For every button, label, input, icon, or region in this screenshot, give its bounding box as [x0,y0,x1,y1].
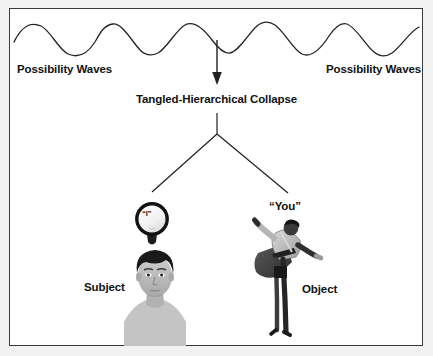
label-possibility-waves-right: Possibility Waves [326,63,421,75]
fork-branch-right [217,134,288,193]
figure-hand-raised [255,220,259,224]
fork-branch-left [152,134,217,192]
label-tangled-hierarchical-collapse: Tangled-Hierarchical Collapse [136,93,297,105]
figure-arm-extended [298,245,316,256]
figure-hand-extended [316,256,321,258]
label-subject: Subject [84,281,125,293]
portrait-pupil-right [160,274,163,277]
y-fork-group [152,113,288,193]
label-quoted-you: “You” [269,200,301,212]
figure-foot-back [271,330,276,334]
subject-face-portrait [124,250,186,346]
label-object: Object [302,283,337,295]
object-leaping-person [254,220,321,335]
portrait-pupil-left [147,274,150,277]
figure-knee-block [274,266,287,278]
portrait-ear-right [169,272,174,281]
label-quoted-i: “I” [142,209,152,218]
downward-arrow-group [212,40,222,85]
diagram-canvas [0,0,433,356]
diagram-root: Possibility Waves Possibility Waves Tang… [0,0,433,356]
figure-foot-front [284,332,290,335]
label-possibility-waves-left: Possibility Waves [17,63,112,75]
arrow-head-icon [212,72,222,85]
portrait-ear-left [136,272,141,281]
